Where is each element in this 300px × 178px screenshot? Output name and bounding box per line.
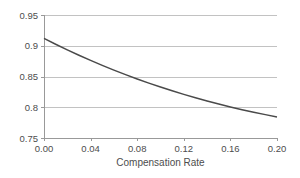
- y-tick-label: 0.75: [20, 133, 39, 144]
- y-tick-label: 0.9: [25, 40, 38, 51]
- x-tick-label: 0.16: [221, 143, 240, 154]
- x-tick-label: 0.12: [175, 143, 194, 154]
- chart-container: 0.750.80.850.90.95 0.000.040.080.120.160…: [0, 0, 300, 178]
- x-tick-label: 0.04: [81, 143, 100, 154]
- tickmarks: [41, 16, 278, 142]
- y-tick-label: 0.95: [20, 10, 39, 21]
- y-tick-label: 0.8: [25, 102, 38, 113]
- y-tick-label: 0.85: [20, 71, 39, 82]
- x-axis-title: Compensation Rate: [116, 157, 205, 168]
- y-tick-labels: 0.750.80.850.90.95: [20, 10, 39, 144]
- gridlines: [44, 16, 277, 139]
- chart-plot: 0.750.80.850.90.95 0.000.040.080.120.160…: [0, 0, 300, 178]
- x-tick-label: 0.08: [128, 143, 147, 154]
- x-tick-labels: 0.000.040.080.120.160.20: [35, 143, 287, 154]
- x-tick-label: 0.20: [268, 143, 287, 154]
- x-tick-label: 0.00: [35, 143, 54, 154]
